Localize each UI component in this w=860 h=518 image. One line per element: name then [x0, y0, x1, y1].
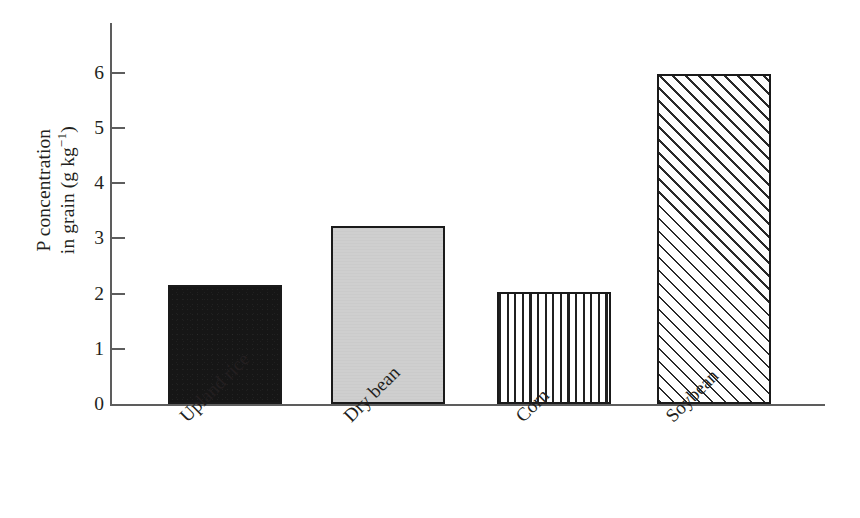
y-tick-label-3: 3 — [74, 228, 104, 248]
figure-bar-chart: P concentrationin grain (g kg−1) 0123456… — [0, 0, 860, 518]
y-tick-label-1: 1 — [74, 339, 104, 359]
y-tick-label-0: 0 — [74, 394, 104, 414]
y-tick-1 — [112, 348, 125, 350]
bar-soybean — [657, 74, 771, 404]
y-tick-label-2: 2 — [74, 284, 104, 304]
plot-area: 0123456 Upland riceDry beanCornSoybean — [0, 0, 860, 518]
y-tick-6 — [112, 72, 125, 74]
y-tick-3 — [112, 237, 125, 239]
y-tick-4 — [112, 182, 125, 184]
y-tick-label-4: 4 — [74, 173, 104, 193]
y-tick-5 — [112, 127, 125, 129]
y-tick-2 — [112, 293, 125, 295]
y-tick-label-5: 5 — [74, 118, 104, 138]
y-tick-label-6: 6 — [74, 63, 104, 83]
